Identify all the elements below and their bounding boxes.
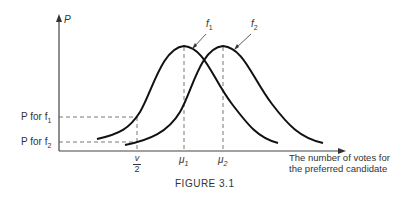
f2-sub: 2 (254, 24, 258, 31)
mu1-sub: 1 (184, 160, 188, 167)
x-axis-label-line1: The number of votes for (289, 152, 390, 163)
figure-caption: FIGURE 3.1 (175, 178, 234, 189)
x-axis-label-line2: the preferred candidate (289, 163, 390, 174)
f1-sub: 1 (209, 24, 213, 31)
y-marker-f2-text: P for f (21, 136, 48, 147)
y-marker-f2: P for f2 (21, 136, 51, 151)
f1-pointer-arrow-icon (192, 43, 197, 49)
y-marker-f1-sub: 1 (48, 117, 52, 124)
y-marker-f1: P for f1 (21, 111, 51, 126)
v-den: 2 (133, 164, 141, 174)
mu2-label: μ2 (218, 154, 227, 169)
f2-pointer-arrow-icon (234, 44, 239, 50)
mu1-label: μ1 (179, 154, 188, 169)
f1-label: f1 (206, 18, 213, 33)
y-axis-label: P (64, 14, 71, 25)
x-axis-label: The number of votes for the preferred ca… (289, 152, 390, 174)
y-axis-arrow-icon (56, 14, 62, 22)
f2-label: f2 (251, 18, 258, 33)
dashed-guides (59, 47, 223, 151)
mu2-sub: 2 (223, 160, 227, 167)
y-marker-f2-sub: 2 (48, 142, 52, 149)
curve-f2 (125, 46, 323, 145)
x-marker-v-over-2: v 2 (133, 154, 141, 175)
y-marker-f1-text: P for f (21, 111, 48, 122)
v-num: v (135, 153, 140, 163)
